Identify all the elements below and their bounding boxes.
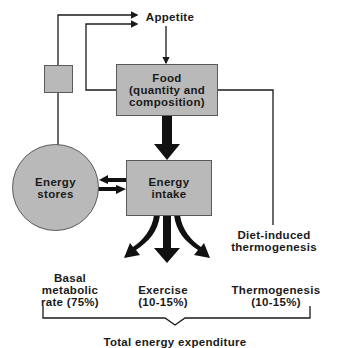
line-food-to-diet-induced <box>218 90 273 225</box>
exercise-label: Exercise (10-15%) <box>128 284 198 308</box>
total-bracket <box>43 306 310 325</box>
diet-induced-label: Diet-induced thermogenesis <box>228 229 320 253</box>
stores-label-line1: Energy <box>35 176 76 188</box>
energy-stores-node: Energy stores <box>12 144 99 231</box>
appetite-label: Appetite <box>140 11 200 23</box>
energy-intake-node: Energy intake <box>126 160 212 216</box>
intake-label-line2: intake <box>149 188 190 200</box>
arrow-stores-to-intake <box>98 185 126 194</box>
thermogenesis-label: Thermogenesis (10-15%) <box>226 284 326 308</box>
food-label-line3: composition) <box>129 96 205 108</box>
thick-arrow-food-to-intake <box>154 115 180 160</box>
stores-label-line2: stores <box>35 188 76 200</box>
feedback-line-stores-to-appetite <box>58 15 137 65</box>
arrow-intake-to-stores <box>99 175 126 184</box>
food-label-line2: (quantity and <box>129 84 205 96</box>
food-node: Food (quantity and composition) <box>116 64 218 116</box>
small-regulator-box <box>44 65 73 93</box>
basal-metabolic-label: Basal metabolic rate (75%) <box>30 272 110 308</box>
thick-arrows-expenditure <box>124 215 210 263</box>
intake-label-line1: Energy <box>149 176 190 188</box>
total-energy-label: Total energy expenditure <box>90 336 260 348</box>
food-label-line1: Food <box>129 72 205 84</box>
